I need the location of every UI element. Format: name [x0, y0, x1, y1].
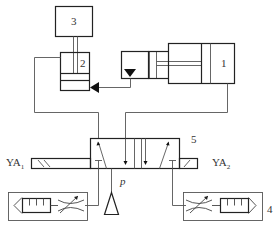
- hydraulic-circuit-diagram: [0, 0, 275, 228]
- label-solenoid-ya1: YA1: [6, 157, 24, 171]
- directional-valve-5: [91, 139, 180, 169]
- throttle-filter-assembly-right: [184, 193, 263, 221]
- solenoid-ya1: [32, 159, 91, 169]
- ya2-main: YA: [212, 156, 227, 168]
- label-solenoid-ya2: YA2: [212, 157, 230, 171]
- label-component-2: 2: [80, 58, 86, 69]
- arrow-left-icon: [90, 82, 99, 93]
- pressure-source-triangle: [105, 193, 119, 215]
- label-pressure-p: p: [120, 176, 126, 187]
- label-component-3: 3: [71, 16, 77, 27]
- cylinder-1-rod-housing: [122, 52, 149, 79]
- label-component-4: 4: [267, 204, 273, 215]
- ya1-sub: 1: [21, 163, 25, 171]
- label-component-1: 1: [221, 58, 227, 69]
- ya1-main: YA: [6, 156, 21, 168]
- solenoid-ya2: [180, 159, 198, 169]
- ya2-sub: 2: [227, 163, 231, 171]
- arrow-down-icon: [124, 69, 136, 77]
- label-component-5: 5: [191, 134, 197, 145]
